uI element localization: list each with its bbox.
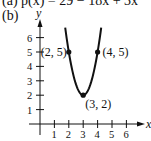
parabola-curve: [65, 28, 101, 96]
x-tick-label: 2: [66, 129, 71, 140]
parabola-chart: xy 123456123456 (2, 5)(4, 5)(3, 2): [0, 0, 151, 141]
y-tick-label: 6: [27, 33, 32, 44]
y-tick-label: 3: [27, 76, 32, 87]
x-tick-label: 5: [109, 129, 114, 140]
x-tick-label: 4: [95, 129, 101, 140]
y-axis-arrow-icon: [38, 19, 43, 27]
y-tick-label: 4: [27, 61, 33, 72]
point-label: (3, 2): [85, 97, 111, 111]
x-axis-arrow-icon: [137, 122, 145, 127]
point-marker: [95, 49, 100, 54]
x-tick-label: 3: [80, 129, 85, 140]
x-axis-label: x: [145, 117, 151, 131]
x-tick-label: 1: [51, 129, 56, 140]
axes: xy: [29, 6, 151, 135]
x-tick-label: 6: [123, 129, 128, 140]
y-axis-label: y: [35, 6, 42, 20]
point-label: (4, 5): [103, 45, 129, 59]
point-marker: [66, 49, 71, 54]
point-label: (2, 5): [41, 45, 67, 59]
y-tick-label: 2: [27, 90, 32, 101]
y-tick-label: 1: [27, 105, 32, 116]
labeled-points: (2, 5)(4, 5)(3, 2): [41, 45, 129, 111]
y-tick-label: 5: [27, 47, 32, 58]
